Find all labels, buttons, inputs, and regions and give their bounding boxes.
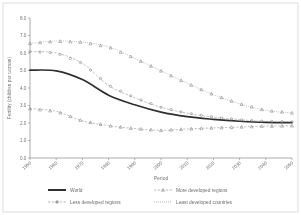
legend-label: World xyxy=(70,188,83,193)
data-point-marker xyxy=(280,110,283,113)
legend-item-world[interactable]: World xyxy=(48,188,83,193)
x-tick-label: 1970 xyxy=(74,160,85,171)
y-tick-label: 6.0 xyxy=(20,51,27,56)
chart-canvas: 0.01.02.03.04.05.06.07.08.01950196019701… xyxy=(0,0,301,215)
y-tick-label: 3.0 xyxy=(20,103,27,108)
x-tick-label: 1990 xyxy=(126,160,137,171)
data-point-marker xyxy=(99,123,102,126)
x-axis-title: Period xyxy=(154,175,169,181)
legend-label: More developed regions xyxy=(176,188,228,193)
x-tick-label: 2050 xyxy=(283,160,294,171)
data-point-marker xyxy=(140,99,142,101)
data-point-marker xyxy=(170,108,172,110)
x-tick-label: 1980 xyxy=(100,160,111,171)
legend-item-more-developed-regions[interactable]: More developed regions xyxy=(154,188,228,193)
y-axis-title: Fertility (children per woman) xyxy=(7,57,12,120)
x-tick-label: 1950 xyxy=(21,160,32,171)
data-point-marker xyxy=(149,128,152,131)
legend-label: Least developed countries xyxy=(176,200,233,205)
legend-item-least-developed-countries[interactable]: Least developed countries xyxy=(154,200,233,205)
data-point-marker xyxy=(270,109,273,112)
x-tick-label: 1960 xyxy=(48,160,59,171)
x-tick-label: 2010 xyxy=(179,160,190,171)
x-tick-label: 2000 xyxy=(152,160,163,171)
fertility-line-chart: 0.01.02.03.04.05.06.07.08.01950196019701… xyxy=(0,0,301,215)
x-tick-label: 2040 xyxy=(257,160,268,171)
series-more-developed-regions xyxy=(29,107,294,131)
data-point-marker xyxy=(200,88,203,91)
series-line xyxy=(30,70,292,123)
series-line xyxy=(30,52,292,122)
data-point-marker xyxy=(49,109,52,112)
data-point-marker xyxy=(89,121,92,124)
data-point-marker xyxy=(220,96,223,99)
y-tick-label: 5.0 xyxy=(20,68,27,73)
x-tick-label: 2030 xyxy=(231,160,242,171)
y-tick-label: 1.0 xyxy=(20,138,27,143)
series-world xyxy=(30,70,292,123)
chart-border xyxy=(3,3,298,212)
series-least-developed-countries xyxy=(29,40,294,114)
y-tick-label: 8.0 xyxy=(20,16,27,21)
y-tick-label: 7.0 xyxy=(20,33,27,38)
data-point-marker xyxy=(69,57,71,59)
data-point-marker xyxy=(69,115,72,118)
x-tick-label: 2020 xyxy=(205,160,216,171)
legend-label: Less developed regions xyxy=(70,200,121,205)
data-point-marker xyxy=(129,55,132,58)
data-point-marker xyxy=(39,108,42,111)
y-tick-label: 0.0 xyxy=(20,156,27,161)
series-line xyxy=(30,41,292,113)
data-point-marker xyxy=(170,128,173,131)
data-point-marker xyxy=(260,108,263,111)
data-point-marker xyxy=(39,51,41,53)
data-point-marker xyxy=(230,99,233,102)
data-point-marker xyxy=(99,44,102,47)
y-tick-label: 2.0 xyxy=(20,121,27,126)
y-tick-label: 4.0 xyxy=(20,86,27,91)
legend-item-less-developed-regions[interactable]: Less developed regions xyxy=(48,200,121,205)
data-point-marker xyxy=(69,40,72,43)
